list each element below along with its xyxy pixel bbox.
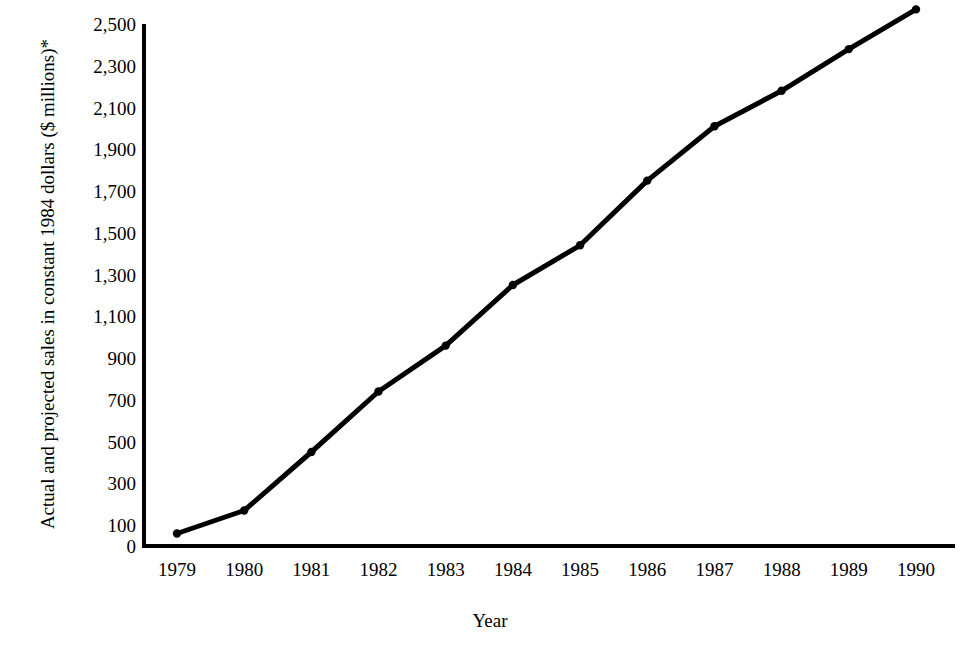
data-point-marker (643, 176, 651, 184)
data-point-marker (173, 529, 181, 537)
x-axis-title: Year (0, 610, 980, 632)
x-tick-label: 1990 (876, 560, 956, 581)
chart-figure: Actual and projected sales in constant 1… (0, 0, 980, 659)
series-line-path (177, 9, 916, 533)
data-point-marker (576, 241, 584, 249)
data-point-marker (509, 281, 517, 289)
x-axis-tick-labels: 1979198019811982198319841985198619871988… (0, 560, 980, 590)
data-point-marker (240, 506, 248, 514)
data-point-marker (442, 341, 450, 349)
data-point-marker (307, 448, 315, 456)
data-point-marker (777, 87, 785, 95)
data-point-marker (374, 387, 382, 395)
data-point-marker (710, 122, 718, 130)
data-point-marker (845, 45, 853, 53)
data-point-marker (912, 5, 920, 13)
series-data-point-markers (173, 5, 920, 538)
